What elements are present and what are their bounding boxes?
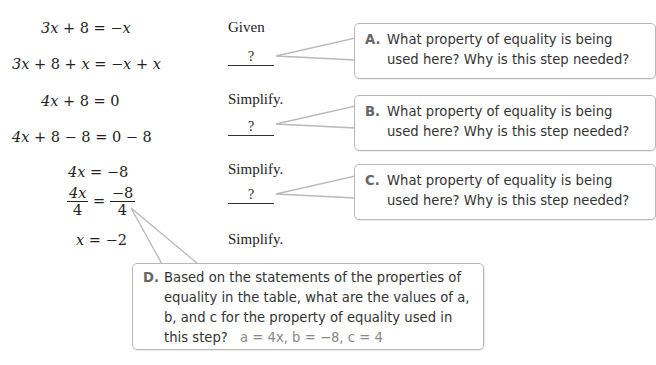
callout-d: D. Based on the statements of the proper… <box>132 263 484 350</box>
callout-d-answer: a = 4x, b = −8, c = 4 <box>240 330 383 345</box>
callout-c: C. What property of equality is being us… <box>354 164 656 220</box>
callout-b: B. What property of equality is being us… <box>354 95 656 151</box>
pointer-a <box>276 38 355 60</box>
reason-simplify-1: Simplify. <box>228 91 283 108</box>
statement-6: 4x4 = −84 <box>67 185 135 218</box>
callout-d-line4: this step? <box>164 330 228 345</box>
callout-d-line3: b, and c for the property of equality us… <box>164 308 469 328</box>
pointer-c <box>276 176 355 198</box>
reason-simplify-3: Simplify. <box>228 231 283 248</box>
callout-a-letter: A. <box>365 30 380 50</box>
callout-c-letter: C. <box>365 171 380 191</box>
statement-7: x = −2 <box>76 232 127 248</box>
reason-blank-c: ? <box>228 187 274 204</box>
statement-5: 4x = −8 <box>68 164 128 180</box>
reason-blank-a: ? <box>228 49 274 66</box>
callout-d-line4-row: this step? a = 4x, b = −8, c = 4 <box>164 328 469 348</box>
callout-b-line1: What property of equality is being <box>387 102 629 122</box>
reason-blank-b: ? <box>228 119 274 136</box>
callout-a-line1: What property of equality is being <box>387 30 629 50</box>
statement-4: 4x + 8 − 8 = 0 − 8 <box>12 129 152 145</box>
callout-b-letter: B. <box>365 102 380 122</box>
callout-b-line2: used here? Why is this step needed? <box>387 122 629 142</box>
callout-c-line1: What property of equality is being <box>387 171 629 191</box>
callout-c-line2: used here? Why is this step needed? <box>387 191 629 211</box>
callout-d-letter: D. <box>143 268 159 288</box>
pointer-d <box>131 208 198 264</box>
reason-simplify-2: Simplify. <box>228 161 283 178</box>
statement-1: 3x + 8 = −x <box>41 20 131 36</box>
callout-a: A. What property of equality is being us… <box>354 23 656 79</box>
callout-d-line1: Based on the statements of the propertie… <box>164 268 469 288</box>
pointer-b <box>276 106 355 128</box>
reason-given: Given <box>228 19 265 36</box>
callout-a-line2: used here? Why is this step needed? <box>387 50 629 70</box>
statement-2: 3x + 8 + x = −x + x <box>12 56 161 72</box>
statement-3: 4x + 8 = 0 <box>41 93 120 109</box>
callout-d-line2: equality in the table, what are the valu… <box>164 288 469 308</box>
